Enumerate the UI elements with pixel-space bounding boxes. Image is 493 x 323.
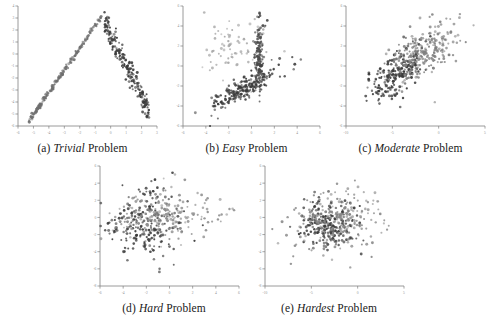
data-point xyxy=(250,74,252,76)
data-point xyxy=(243,38,246,41)
data-point xyxy=(240,50,243,53)
data-point xyxy=(120,239,122,241)
data-point xyxy=(136,198,138,200)
data-point xyxy=(151,206,153,208)
x-tick-label: 5 xyxy=(484,131,486,135)
data-point xyxy=(321,230,324,233)
data-point xyxy=(367,79,370,82)
y-tick-label: -5 xyxy=(11,112,14,116)
data-point xyxy=(366,212,368,214)
data-point xyxy=(297,212,300,215)
data-point xyxy=(415,47,417,49)
panel-e: -10-505-8-6-4-20246 (e) Hardest Problem xyxy=(247,160,412,323)
data-point xyxy=(314,217,317,220)
data-point xyxy=(125,238,127,240)
data-point xyxy=(403,57,405,59)
data-point xyxy=(259,90,261,92)
data-point xyxy=(210,96,213,99)
data-point xyxy=(106,222,109,225)
data-point xyxy=(113,219,115,221)
data-point xyxy=(434,101,436,103)
data-point xyxy=(389,59,391,61)
data-point xyxy=(395,63,397,65)
data-point xyxy=(327,235,330,238)
data-point xyxy=(353,180,355,182)
data-point xyxy=(330,228,332,230)
data-point xyxy=(220,55,222,57)
data-point xyxy=(398,59,401,62)
data-point xyxy=(201,206,203,208)
data-point xyxy=(131,76,133,78)
data-point xyxy=(242,89,244,91)
data-point xyxy=(431,57,433,59)
data-point xyxy=(327,205,330,208)
data-point xyxy=(144,187,147,190)
data-point xyxy=(322,235,325,238)
x-tick-label: -5 xyxy=(309,291,312,295)
data-point xyxy=(260,88,262,90)
data-point xyxy=(311,241,313,243)
data-point xyxy=(176,230,178,232)
data-point xyxy=(221,43,224,46)
y-tick-label: 4 xyxy=(94,182,96,186)
data-point xyxy=(431,71,433,73)
data-point xyxy=(255,67,257,69)
data-point xyxy=(63,70,65,72)
data-point xyxy=(365,243,368,246)
data-point xyxy=(378,98,380,100)
data-point xyxy=(258,94,260,96)
data-point xyxy=(129,67,132,70)
data-point xyxy=(129,73,131,75)
data-point xyxy=(256,62,258,64)
caption-a-prefix: (a) xyxy=(37,142,50,154)
data-point xyxy=(240,81,242,83)
y-tick-label: 2 xyxy=(178,44,180,48)
data-point xyxy=(256,38,258,40)
data-point xyxy=(132,69,134,71)
data-point xyxy=(263,56,266,59)
data-point xyxy=(416,73,418,75)
data-point xyxy=(179,244,181,246)
data-point xyxy=(259,61,261,63)
data-point xyxy=(391,85,393,87)
data-point xyxy=(88,31,90,33)
data-point xyxy=(293,63,296,66)
data-point xyxy=(384,79,386,81)
data-point xyxy=(130,80,132,82)
data-point xyxy=(309,223,311,225)
data-point xyxy=(390,63,393,66)
data-point xyxy=(258,68,260,70)
data-point xyxy=(407,73,409,75)
data-point xyxy=(416,52,418,54)
data-point xyxy=(163,223,165,225)
data-point xyxy=(346,225,349,228)
data-point xyxy=(454,35,457,38)
data-point xyxy=(406,70,408,72)
data-point xyxy=(355,224,358,227)
data-point xyxy=(404,69,406,71)
data-point xyxy=(153,213,155,215)
data-point xyxy=(251,84,253,86)
data-point xyxy=(148,219,151,222)
data-point xyxy=(402,55,405,58)
data-point xyxy=(152,236,154,238)
data-point xyxy=(420,49,422,51)
data-point xyxy=(231,56,233,58)
data-point xyxy=(331,206,333,208)
data-point xyxy=(378,213,381,216)
data-point xyxy=(441,44,444,47)
data-point xyxy=(346,232,348,234)
data-point xyxy=(415,70,417,72)
x-tick-label: 0 xyxy=(251,131,253,135)
data-point xyxy=(87,34,90,37)
data-point xyxy=(377,200,379,202)
data-point xyxy=(398,89,400,91)
data-point xyxy=(111,238,113,240)
data-point xyxy=(346,187,349,190)
y-tick-label: 2 xyxy=(13,28,15,32)
data-point xyxy=(152,258,155,261)
data-point xyxy=(154,228,156,230)
data-point xyxy=(138,228,141,231)
data-point xyxy=(259,76,261,78)
data-point xyxy=(459,13,461,15)
